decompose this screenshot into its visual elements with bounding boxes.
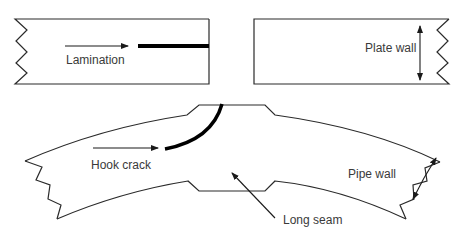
pipe-left-break: [25, 161, 61, 219]
lamination-plate: [15, 19, 209, 84]
plate-wall-label: Plate wall: [365, 42, 416, 54]
pipe-wall-arrow: [413, 178, 424, 199]
pipe-wall-label: Pipe wall: [348, 168, 396, 180]
defect-diagram: [0, 0, 463, 235]
hook-crack-label: Hook crack: [91, 159, 151, 171]
lamination-label: Lamination: [66, 54, 125, 66]
plate-wall-plate: [254, 19, 449, 84]
pipe-outer-wall: [25, 105, 440, 162]
hook-crack-defect: [165, 104, 222, 149]
plate-outline: [15, 19, 209, 84]
pipe-right-break: [400, 162, 440, 219]
pipe-inner-wall: [57, 181, 406, 219]
long-seam-arrow: [232, 173, 275, 218]
pipe-section: [25, 104, 440, 219]
long-seam-label: Long seam: [283, 214, 342, 226]
